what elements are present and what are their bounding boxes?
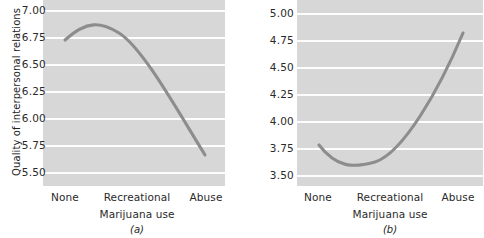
- xtick-label-a-none: None: [51, 191, 79, 203]
- ytick-label-a-4: 6.00: [2, 112, 46, 124]
- ytick-label-a-0: 7.00: [2, 4, 46, 16]
- plot-area-a: [43, 0, 225, 186]
- ytick-label-b-5: 3.75: [250, 142, 294, 154]
- ytick-label-b-3: 4.25: [250, 88, 294, 100]
- ytick-label-b-4: 4.00: [250, 115, 294, 127]
- data-curve-a: [43, 0, 225, 186]
- ytick-label-a-6: 5.50: [2, 166, 46, 178]
- ytick-label-b-2: 4.50: [250, 61, 294, 73]
- xtick-label-b-abuse: Abuse: [442, 191, 475, 203]
- panel-caption-a: (a): [130, 224, 144, 235]
- ytick-label-a-5: 5.75: [2, 139, 46, 151]
- ytick-label-a-1: 6.75: [2, 31, 46, 43]
- ytick-label-b-6: 3.50: [250, 169, 294, 181]
- ytick-label-a-3: 6.25: [2, 85, 46, 97]
- xtick-label-b-recreational: Recreational: [357, 191, 424, 203]
- plot-area-b: [297, 0, 483, 186]
- xtick-label-b-none: None: [304, 191, 332, 203]
- ytick-label-b-1: 4.75: [250, 34, 294, 46]
- x-axis-title-b: Marijuana use: [352, 208, 427, 220]
- ytick-label-b-0: 5.00: [250, 7, 294, 19]
- chart-panel-a: 7.00 6.75 6.50 6.25 6.00 5.75 5.50 Quali…: [0, 0, 242, 238]
- x-axis-title-a: Marijuana use: [99, 208, 174, 220]
- chart-panel-b: 5.00 4.75 4.50 4.25 4.00 3.75 3.50 Subje…: [242, 0, 484, 238]
- xtick-label-a-abuse: Abuse: [190, 191, 223, 203]
- data-curve-b: [297, 0, 483, 186]
- figure-sheet: 7.00 6.75 6.50 6.25 6.00 5.75 5.50 Quali…: [0, 0, 484, 238]
- panel-caption-b: (b): [383, 224, 397, 235]
- y-axis-title-a: Quality of interpersonal relations: [11, 8, 22, 176]
- xtick-label-a-recreational: Recreational: [104, 191, 171, 203]
- ytick-label-a-2: 6.50: [2, 58, 46, 70]
